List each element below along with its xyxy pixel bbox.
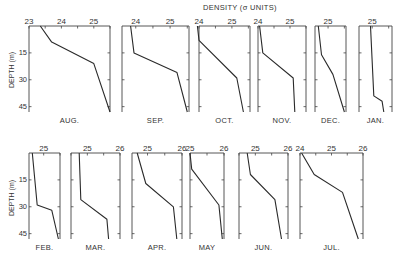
density-profiles-figure: DEPTH (m)153045DEPTH (m)153045232425AUG.… [0,0,398,260]
depth-tick-label: 30 [19,202,27,211]
panel-dec: 25DEC. [315,17,346,126]
panel-frame [239,153,288,239]
panel-oct: 2425OCT. [195,17,250,126]
panel-frame [29,26,110,112]
density-tick-label: 26 [284,144,293,153]
panel-sep: 2425SEP. [122,17,189,126]
month-label: JAN. [367,116,384,125]
depth-axis-label: DEPTH (m) [8,180,16,216]
depth-tick-label: 15 [19,175,27,184]
density-tick-label: 25 [186,144,195,153]
density-profile-line [318,26,344,112]
density-tick-label: 26 [359,144,368,153]
panel-aug: 232425AUG. [25,17,110,126]
month-label: OCT. [215,116,233,125]
panel-frame [71,153,120,239]
density-tick-label: 26 [116,144,125,153]
density-tick-label: 25 [368,17,377,26]
depth-axis-row-2: DEPTH (m)153045 [8,175,27,238]
density-tick-label: 25 [327,144,336,153]
month-label: NOV. [273,116,292,125]
month-label: FEB. [36,243,54,252]
density-tick-label: 24 [254,17,263,26]
density-tick-label: 25 [286,17,295,26]
density-profile-line [197,26,243,112]
month-label: JUN. [255,243,273,252]
panel-nov: 2425NOV. [254,17,306,126]
density-profile-line [137,153,177,239]
density-tick-label: 25 [143,144,152,153]
density-tick-label: 25 [227,17,236,26]
density-tick-label: 25 [83,144,92,153]
density-tick-label: 23 [25,17,34,26]
panel-frame [199,26,250,112]
density-tick-label: 24 [131,17,140,26]
density-tick-label: 24 [296,144,305,153]
panel-feb: 25FEB. [29,144,60,253]
month-label: JUL. [323,243,340,252]
panel-apr: 2526APR. [132,144,187,253]
density-tick-label: 24 [57,17,66,26]
depth-axis-label: DEPTH (m) [8,52,16,88]
month-label: APR. [148,243,167,252]
panel-frame [132,153,182,239]
depth-axis-row-1: DEPTH (m)153045 [8,48,27,111]
month-label: AUG. [60,116,80,125]
density-tick-label: 25 [251,144,260,153]
density-tick-label: 26 [220,144,229,153]
panel-frame [359,26,392,112]
panel-may: 2526MAY [186,144,229,253]
density-tick-label: 25 [166,17,175,26]
month-label: SEP. [147,116,164,125]
density-tick-label: 24 [195,17,204,26]
depth-tick-label: 45 [19,229,27,238]
panel-jul: 242526JUL. [296,144,368,253]
density-profile-line [247,153,281,239]
density-profile-line [79,153,108,239]
panel-jan: 25JAN. [359,17,392,126]
month-label: MAR. [86,243,106,252]
density-profile-line [32,153,58,239]
density-profile-line [190,153,222,239]
density-tick-label: 25 [89,17,98,26]
panel-mar: 2526MAR. [71,144,125,253]
depth-tick-label: 15 [19,48,27,57]
density-tick-label: 25 [324,17,333,26]
depth-tick-label: 30 [19,75,27,84]
density-tick-label: 25 [39,144,48,153]
density-profile-line [260,26,295,112]
panel-frame [190,153,224,239]
density-profile-line [40,26,110,112]
depth-tick-label: 45 [19,102,27,111]
density-profile-line [371,26,384,112]
density-profile-line [131,26,188,112]
month-label: DEC. [321,116,340,125]
density-profile-line [302,153,359,239]
panel-jun: 2526JUN. [239,144,293,253]
month-label: MAY [199,243,216,252]
